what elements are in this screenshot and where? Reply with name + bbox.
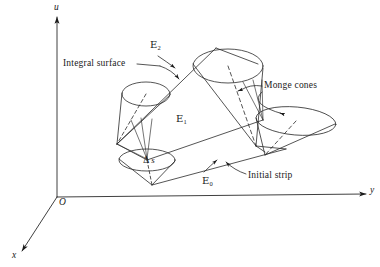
axis-x <box>22 197 57 251</box>
axis-label-x: x <box>12 251 16 261</box>
label-strip-2: E2 <box>150 40 161 51</box>
label-strip-1: E1 <box>176 114 187 125</box>
axis-y <box>57 194 366 197</box>
axis-label-y: y <box>370 186 374 196</box>
figure-monge-cones: u y x O Integral surface Monge cones Ini… <box>0 0 380 267</box>
label-strip-0: E0 <box>202 176 213 187</box>
monge-cone-upper-right <box>193 49 263 146</box>
callout-monge-cones: Monge cones <box>264 81 317 91</box>
axis-label-u: u <box>54 3 59 13</box>
strip-2-subscript: 2 <box>157 44 160 51</box>
axis-label-origin: O <box>59 198 66 208</box>
delta-symbol: Δ <box>143 155 150 165</box>
leader-initial-strip <box>226 162 246 174</box>
diagram-canvas <box>0 0 380 267</box>
delta-variable: s <box>151 155 155 165</box>
callout-integral-surface: Integral surface <box>63 59 126 69</box>
label-arc-length-increment: Δ s <box>143 156 155 165</box>
leader-strip-0 <box>204 160 217 172</box>
strip-1-subscript: 1 <box>183 118 186 125</box>
callout-initial-strip: Initial strip <box>248 171 293 181</box>
strip-0-subscript: 0 <box>209 180 212 187</box>
